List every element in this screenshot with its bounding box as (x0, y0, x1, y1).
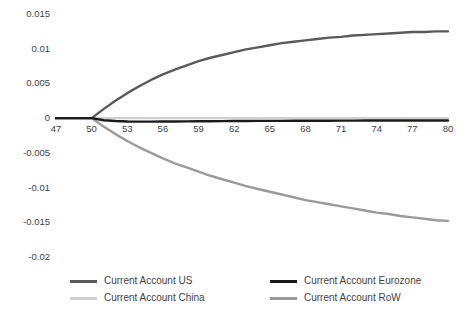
chart-container: 0.0150.010.0050-0.005-0.01-0.015-0.02 47… (0, 0, 463, 319)
x-axis-tick-label: 53 (122, 124, 133, 134)
x-axis-tick-label: 65 (265, 124, 276, 134)
legend-swatch-current-account-china (70, 297, 97, 300)
x-axis-tick-label: 77 (407, 124, 418, 134)
x-axis: 475053565962656871747780 (0, 0, 463, 266)
legend-swatch-current-account-us (70, 280, 97, 283)
legend-label-current-account-row: Current Account RoW (304, 292, 401, 304)
legend-item-current-account-row[interactable]: Current Account RoW (270, 292, 401, 304)
x-axis-tick-label: 47 (51, 124, 62, 134)
x-axis-tick-label: 59 (193, 124, 204, 134)
legend-swatch-current-account-eurozone (270, 280, 297, 283)
legend-swatch-current-account-row (270, 297, 297, 300)
legend-label-current-account-us: Current Account US (104, 275, 192, 287)
x-axis-tick-label: 68 (300, 124, 311, 134)
legend-label-current-account-eurozone: Current Account Eurozone (304, 275, 421, 287)
legend-item-current-account-china[interactable]: Current Account China (70, 292, 205, 304)
legend-item-current-account-us[interactable]: Current Account US (70, 275, 192, 287)
x-axis-tick-label: 74 (371, 124, 382, 134)
legend-item-current-account-eurozone[interactable]: Current Account Eurozone (270, 275, 421, 287)
x-axis-tick-label: 50 (86, 124, 97, 134)
x-axis-tick-label: 71 (336, 124, 347, 134)
chart-legend: Current Account US Current Account China… (0, 272, 463, 319)
legend-label-current-account-china: Current Account China (104, 292, 205, 304)
x-axis-tick-label: 62 (229, 124, 240, 134)
x-axis-tick-label: 80 (443, 124, 454, 134)
x-axis-tick-label: 56 (158, 124, 169, 134)
